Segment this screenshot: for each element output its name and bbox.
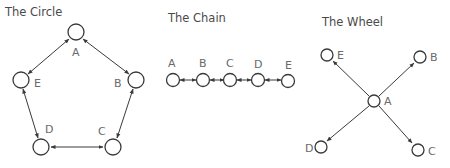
edge-a-d: [327, 106, 369, 141]
label-a: A: [72, 46, 80, 59]
node-e: [13, 72, 29, 88]
label-c: C: [226, 57, 234, 70]
node-b: [197, 74, 210, 87]
label-d: D: [45, 123, 53, 136]
label-c: C: [428, 145, 436, 158]
node-c: [412, 144, 424, 156]
label-e: E: [34, 77, 41, 90]
node-a: [68, 24, 84, 40]
node-b: [128, 72, 144, 88]
edge-e-d: [23, 89, 38, 138]
label-b: B: [430, 51, 438, 64]
edge-a-b: [83, 39, 129, 74]
wheel-title: The Wheel: [321, 15, 383, 29]
edge-a-b: [379, 63, 414, 96]
node-a: [167, 74, 180, 87]
label-a: A: [384, 95, 392, 108]
node-b: [414, 51, 426, 63]
label-e: E: [337, 49, 344, 62]
label-b: B: [114, 77, 122, 90]
edge-b-c: [117, 89, 133, 138]
node-d: [315, 141, 327, 153]
wheel-network: The Wheel A E B D C: [305, 15, 438, 158]
node-a-hub: [368, 95, 380, 107]
label-b: B: [199, 57, 207, 70]
circle-network: The Circle A E B D C: [4, 5, 144, 155]
label-d: D: [254, 58, 262, 71]
label-a: A: [168, 57, 176, 70]
node-d: [252, 74, 265, 87]
edge-a-e: [333, 61, 369, 96]
edge-a-c: [379, 106, 412, 143]
chain-network: The Chain A B C D E: [167, 11, 295, 88]
chain-title: The Chain: [167, 11, 226, 25]
edge-a-e: [28, 39, 69, 74]
node-e: [321, 49, 333, 61]
node-c: [224, 74, 237, 87]
label-d: D: [305, 142, 313, 155]
node-c: [105, 139, 121, 155]
label-e: E: [285, 59, 292, 72]
node-d: [33, 139, 49, 155]
communication-networks-diagram: The Circle A E B D C The Chain: [0, 0, 450, 168]
label-c: C: [98, 125, 106, 138]
circle-title: The Circle: [4, 5, 62, 19]
node-e: [282, 75, 295, 88]
